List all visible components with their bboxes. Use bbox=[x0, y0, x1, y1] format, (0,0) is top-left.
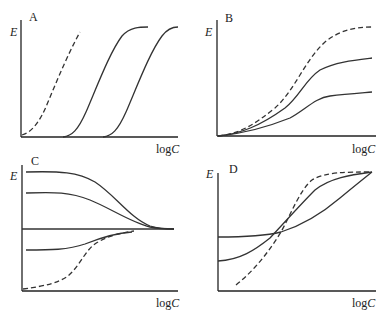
y-axis-label: E bbox=[205, 167, 214, 181]
curve-dashed bbox=[218, 27, 372, 136]
panel-label: B bbox=[225, 11, 233, 25]
x-axis-label: logC bbox=[352, 296, 376, 310]
panel-a: A E logC bbox=[9, 10, 180, 156]
x-axis-label: logC bbox=[352, 142, 376, 156]
curve-solid-upper bbox=[26, 193, 174, 229]
panel-label: C bbox=[31, 154, 39, 168]
curve-solid-middle bbox=[218, 58, 372, 136]
y-axis-label: E bbox=[9, 25, 18, 39]
x-axis-label: logC bbox=[156, 296, 180, 310]
y-axis-label: E bbox=[204, 25, 213, 39]
curve-solid-1 bbox=[63, 27, 148, 137]
curve-solid-mid-start bbox=[218, 172, 372, 261]
curve-dashed-bottom bbox=[23, 231, 134, 289]
panel-label: A bbox=[29, 10, 38, 24]
figure-canvas: A E logC B E logC C E logC D E logC bbox=[0, 0, 386, 314]
curve-dashed bbox=[22, 32, 80, 135]
x-axis-label: logC bbox=[156, 142, 180, 156]
panel-c: C E logC bbox=[9, 154, 180, 310]
panel-label: D bbox=[229, 162, 238, 176]
y-axis-label: E bbox=[9, 169, 18, 183]
panel-d: D E logC bbox=[205, 162, 376, 310]
curve-solid-top bbox=[26, 172, 174, 229]
panel-b: B E logC bbox=[204, 11, 376, 156]
curve-solid-2 bbox=[103, 27, 178, 137]
